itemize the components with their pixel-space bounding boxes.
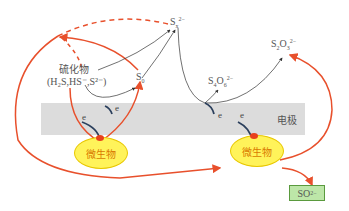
electron-label: e	[218, 110, 222, 120]
microbe-left: 微生物	[74, 137, 128, 169]
thiosulfate-label: S2O32−	[271, 38, 296, 51]
microbe-contact-dot	[96, 135, 104, 141]
sulfide-species: (H₂S,HS⁻,S²⁻)	[47, 77, 106, 87]
tetrathionate-label: S4O62−	[208, 75, 233, 88]
arrows-layer	[0, 0, 349, 211]
electron-label: e	[82, 112, 86, 122]
sulfate-box: SO2−	[289, 185, 325, 201]
sulfide-title: 硫化物	[59, 65, 89, 75]
electrode-label: 电极	[277, 116, 297, 126]
microbe-contact-dot	[250, 133, 258, 139]
dashed-arc	[58, 19, 168, 36]
polysulfide-label: Sx2−	[170, 16, 185, 29]
microbe-right: 微生物	[230, 135, 284, 167]
electron-label: e	[115, 103, 119, 113]
electron-label: e	[240, 110, 244, 120]
sulfur-label: S0	[136, 72, 145, 84]
sulfur-cycle-diagram: Sx2− 硫化物 (H₂S,HS⁻,S²⁻) S0 S4O62− S2O32− …	[0, 0, 349, 211]
